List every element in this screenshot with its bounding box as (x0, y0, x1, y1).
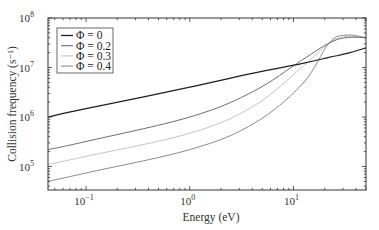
x-tick-label: 101 (284, 193, 299, 207)
x-axis-tick-labels: 10−1100101 (74, 193, 299, 207)
y-tick-label: 106 (19, 109, 34, 123)
x-axis-title: Energy (eV) (183, 211, 240, 224)
collision-frequency-chart: 10−1100101 105106107108 Energy (eV) Coll… (0, 0, 379, 230)
y-tick-label: 107 (19, 60, 34, 74)
y-axis-tick-labels: 105106107108 (19, 10, 34, 173)
y-tick-label: 105 (19, 159, 34, 173)
y-axis-title: Collision frequency (s⁻¹) (6, 46, 19, 162)
legend-label-3: Φ = 0.4 (76, 60, 111, 72)
legend: Φ = 0Φ = 0.2Φ = 0.3Φ = 0.4 (57, 28, 113, 73)
x-tick-label: 10−1 (74, 193, 94, 207)
x-tick-label: 100 (180, 193, 195, 207)
y-tick-label: 108 (19, 10, 34, 24)
